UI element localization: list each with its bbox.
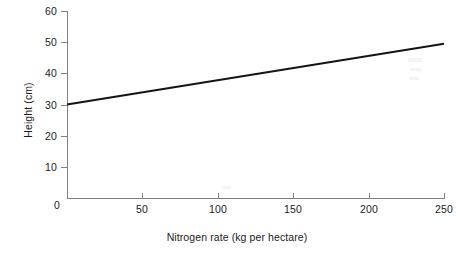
- x-tick-100: [218, 193, 219, 198]
- y-tick-label-40: 40: [31, 67, 57, 79]
- y-tick-30: [61, 105, 67, 106]
- y-tick-label-10: 10: [31, 161, 57, 173]
- y-tick-label-50: 50: [31, 36, 57, 48]
- scan-artifact: [408, 58, 422, 62]
- x-tick-label-250: 250: [424, 203, 464, 215]
- y-tick-label-20: 20: [31, 130, 57, 142]
- x-axis-line: [67, 198, 445, 199]
- y-tick-10: [61, 167, 67, 168]
- y-tick-50: [61, 42, 67, 43]
- series-line-height: [67, 44, 444, 105]
- series-line-chart: [0, 0, 474, 255]
- chart-figure: 60 50 40 30 20 10 0 50 100 150 200 250 N…: [0, 0, 474, 255]
- x-tick-label-200: 200: [349, 203, 389, 215]
- x-axis-title: Nitrogen rate (kg per hectare): [0, 231, 474, 243]
- x-tick-label-150: 150: [273, 203, 313, 215]
- scan-artifact: [222, 186, 231, 189]
- y-tick-60: [61, 11, 67, 12]
- y-tick-label-30: 30: [31, 99, 57, 111]
- x-tick-50: [142, 193, 143, 198]
- plot-area: 60 50 40 30 20 10 0 50 100 150 200 250: [0, 0, 474, 255]
- x-tick-150: [293, 193, 294, 198]
- y-axis-title: Height (cm): [22, 55, 34, 165]
- y-tick-40: [61, 73, 67, 74]
- x-tick-200: [369, 193, 370, 198]
- y-axis-line: [67, 11, 68, 199]
- x-tick-250: [444, 193, 445, 198]
- x-tick-label-50: 50: [122, 203, 162, 215]
- origin-label: 0: [54, 199, 60, 211]
- scan-artifact: [409, 77, 419, 80]
- x-tick-label-100: 100: [198, 203, 238, 215]
- y-tick-label-60: 60: [31, 5, 57, 17]
- y-tick-20: [61, 136, 67, 137]
- scan-artifact: [410, 68, 421, 71]
